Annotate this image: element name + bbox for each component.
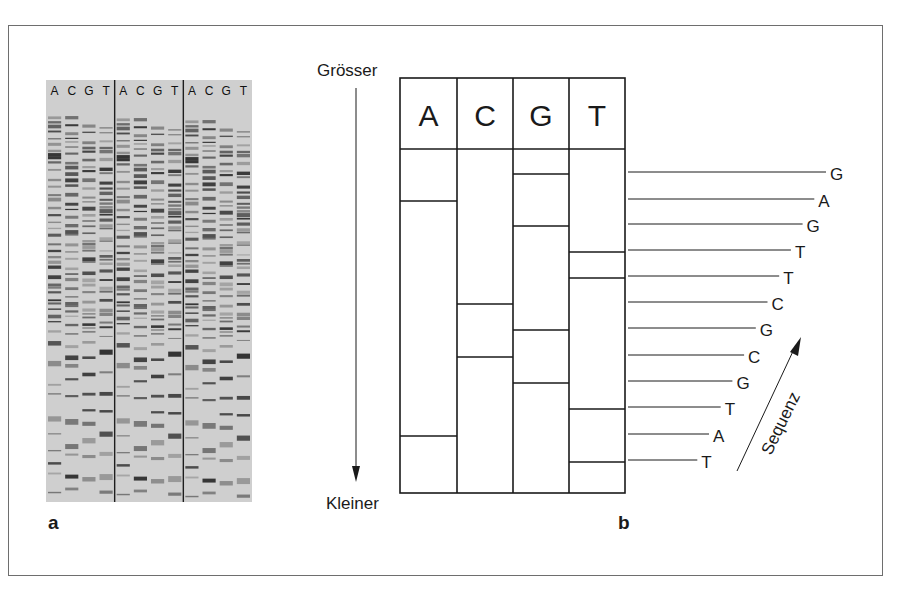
lane-header-a: A — [418, 99, 438, 132]
sequencing-schematic: ACGTGAGTTCGCGTATSequenz — [0, 0, 899, 605]
readout-base: A — [713, 427, 725, 446]
readout-base: T — [783, 269, 793, 288]
readout-base: C — [772, 295, 784, 314]
sequence-arrow-label: Sequenz — [758, 389, 805, 458]
panel-b-label: b — [618, 512, 630, 534]
lane-header-g: G — [529, 99, 552, 132]
axis-label-smaller: Kleiner — [326, 494, 379, 514]
readout-base: T — [725, 400, 735, 419]
lane-header-c: C — [474, 99, 496, 132]
lane-header-t: T — [588, 99, 606, 132]
readout-base: C — [748, 348, 760, 367]
readout-base: G — [760, 321, 773, 340]
readout-base: A — [818, 192, 830, 211]
readout-base: T — [701, 453, 711, 472]
readout-base: T — [795, 243, 805, 262]
arrow-down-icon — [352, 466, 360, 482]
readout-base: G — [807, 217, 820, 236]
readout-base: G — [830, 165, 843, 184]
axis-label-larger: Grösser — [317, 61, 377, 81]
readout-base: G — [736, 374, 749, 393]
